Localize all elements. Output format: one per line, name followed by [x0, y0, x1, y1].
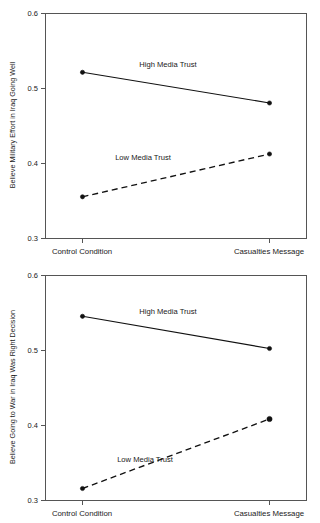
chart-panel-bottom: 0.6 0.5 0.4 0.3 Control Condition Casual… — [0, 262, 320, 523]
chart-panel-top: 0.6 0.5 0.4 0.3 Control Condition Casual… — [0, 0, 320, 261]
xtick-label-top-1: Casualties Message — [234, 247, 304, 256]
series-line-high-media-trust-bottom — [83, 316, 270, 348]
ytick-label-top-1: 0.5 — [28, 84, 38, 93]
xtick-label-top-0: Control Condition — [52, 247, 112, 256]
ytick-label-top-3: 0.3 — [28, 234, 38, 243]
data-point-high-bottom-casualties — [267, 346, 271, 350]
data-point-high-bottom-control — [80, 314, 84, 318]
two-panel-line-chart-figure: 0.6 0.5 0.4 0.3 Control Condition Casual… — [0, 0, 320, 523]
yaxis-title-top: Believe Military Effort in Iraq Going We… — [8, 61, 17, 188]
data-point-low-top-control — [80, 195, 84, 199]
series-label-low-media-trust-top: Low Media Trust — [115, 153, 172, 162]
ytick-label-bottom-0: 0.6 — [28, 271, 38, 280]
series-label-high-media-trust-bottom: High Media Trust — [139, 307, 197, 316]
ytick-label-top-0: 0.6 — [28, 9, 38, 18]
ytick-label-bottom-2: 0.4 — [28, 421, 38, 430]
xtick-label-bottom-1: Casualties Message — [234, 509, 304, 518]
yaxis-title-bottom: Believe Going to War in Iraq Was Right D… — [8, 310, 17, 464]
data-point-low-bottom-casualties — [267, 416, 272, 421]
series-line-low-media-trust-top — [83, 154, 270, 197]
ytick-label-bottom-3: 0.3 — [28, 496, 38, 505]
series-line-high-media-trust-top — [83, 72, 270, 103]
series-label-high-media-trust-top: High Media Trust — [139, 60, 197, 69]
xtick-label-bottom-0: Control Condition — [52, 509, 112, 518]
data-point-high-top-control — [80, 70, 84, 74]
data-point-high-top-casualties — [267, 101, 271, 105]
data-point-low-top-casualties — [267, 152, 271, 156]
plot-frame-top — [45, 13, 306, 238]
series-line-low-media-trust-bottom — [83, 419, 270, 489]
ytick-label-bottom-1: 0.5 — [28, 346, 38, 355]
data-point-low-bottom-control — [80, 486, 84, 490]
series-label-low-media-trust-bottom: Low Media Trust — [117, 455, 174, 464]
ytick-label-top-2: 0.4 — [28, 159, 38, 168]
